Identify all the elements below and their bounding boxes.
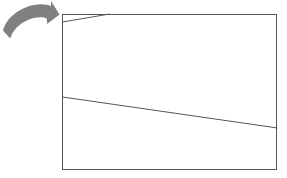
lower-diagonal-line [63,97,278,128]
curved-arrow-icon [3,1,60,39]
diagram-svg [0,0,287,178]
curved-arrow-shape [3,1,60,39]
upper-diagonal-line [63,14,110,22]
main-rectangle [63,15,277,170]
diagram-canvas [0,0,287,178]
